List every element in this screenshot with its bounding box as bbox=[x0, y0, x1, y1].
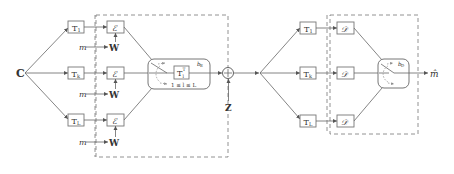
svg-text:T: T bbox=[183, 67, 186, 72]
decoder-branch-1: T 1 𝒟 bbox=[300, 22, 382, 60]
svg-text:D: D bbox=[401, 63, 404, 68]
encoder-branch-1: T 1 ℰ m W bbox=[68, 21, 152, 60]
svg-text:m: m bbox=[79, 90, 87, 99]
encoder-section: C T 1 ℰ m W T k ℰ m bbox=[16, 15, 228, 157]
encoder-branch-k: T k ℰ m W bbox=[68, 67, 149, 100]
input-label-c: C bbox=[16, 67, 25, 80]
dec-selector-box bbox=[378, 59, 409, 88]
svg-text:1: 1 bbox=[78, 27, 81, 33]
svg-text:W: W bbox=[108, 138, 120, 148]
svg-text:m: m bbox=[79, 138, 87, 147]
watermark-system-diagram: C T 1 ℰ m W T k ℰ m bbox=[0, 0, 454, 174]
svg-text:W: W bbox=[108, 43, 120, 53]
noise-label-z: Z bbox=[225, 103, 232, 113]
svg-text:1: 1 bbox=[310, 28, 313, 34]
range-label: 1 ≤ l ≤ L bbox=[171, 82, 196, 88]
channel-section: Z bbox=[223, 68, 260, 114]
decoder-branch-k: T k 𝒟 bbox=[300, 67, 379, 79]
svg-text:m: m bbox=[79, 43, 87, 52]
output-label-m-hat: m̂ bbox=[430, 69, 439, 79]
decoder-section: T 1 𝒟 T k 𝒟 T L 𝒟 bbox=[260, 15, 439, 134]
svg-text:E: E bbox=[200, 63, 203, 68]
svg-text:W: W bbox=[108, 90, 120, 100]
decoder-branch-l: T L 𝒟 bbox=[300, 88, 382, 127]
decoder-selector: b D bbox=[378, 59, 428, 88]
encoder-selector: b E T T l 1 ≤ l ≤ L bbox=[148, 59, 222, 89]
